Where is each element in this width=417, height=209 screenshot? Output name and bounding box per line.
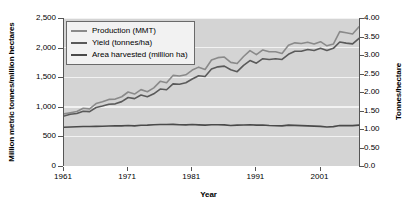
y-axis-right-tick-label: 1.00 xyxy=(364,124,408,134)
y-axis-left-tick-mark xyxy=(58,48,63,49)
y-axis-left-tick-label: 0 xyxy=(12,161,56,171)
y-axis-left-tick-label: 1,500 xyxy=(12,72,56,82)
y-axis-right-tick-mark xyxy=(359,18,364,19)
y-axis-left-tick-label: 2,500 xyxy=(12,13,56,23)
y-axis-right-tick-mark xyxy=(359,111,364,112)
x-axis-tick-label: 1991 xyxy=(235,172,275,182)
x-axis-tick-label: 1971 xyxy=(107,172,147,182)
legend-swatch-production xyxy=(71,30,87,32)
y-axis-left-title: Million metric tonnes/million hectares xyxy=(7,12,17,172)
y-axis-right-tick-mark xyxy=(359,129,364,130)
legend-swatch-yield xyxy=(71,42,87,44)
y-axis-right-tick-mark xyxy=(359,37,364,38)
x-axis-tick-label: 1961 xyxy=(43,172,83,182)
legend-item-area-harvested: Area harvested (million ha) xyxy=(71,49,188,61)
y-axis-right-tick-label: 2.00 xyxy=(364,87,408,97)
legend-label-yield: Yield (tonnes/ha) xyxy=(92,38,152,48)
chart-legend: Production (MMT) Yield (tonnes/ha) Area … xyxy=(66,21,195,65)
legend-label-area-harvested: Area harvested (million ha) xyxy=(92,50,188,60)
x-axis-tick-mark xyxy=(127,167,128,171)
y-axis-right-tick-label: 0.50 xyxy=(364,143,408,153)
x-axis-title: Year xyxy=(0,190,417,199)
legend-swatch-area-harvested xyxy=(71,54,87,56)
y-axis-right-tick-label: 4.00 xyxy=(364,13,408,23)
series-line xyxy=(64,124,359,127)
y-axis-right-tick-mark xyxy=(359,166,364,167)
x-axis-tick-mark xyxy=(63,167,64,171)
y-axis-left-tick-mark xyxy=(58,136,63,137)
y-axis-right-tick-label: 3.50 xyxy=(364,32,408,42)
y-axis-right-tick-label: 0.0 xyxy=(364,161,408,171)
y-axis-left-tick-mark xyxy=(58,77,63,78)
x-axis-tick-label: 2001 xyxy=(300,172,340,182)
x-axis-tick-mark xyxy=(320,167,321,171)
y-axis-left-tick-label: 2,000 xyxy=(12,43,56,53)
y-axis-left-tick-mark xyxy=(58,18,63,19)
y-axis-right-tick-mark xyxy=(359,92,364,93)
y-axis-left-tick-label: 500 xyxy=(12,131,56,141)
x-axis-tick-mark xyxy=(191,167,192,171)
legend-label-production: Production (MMT) xyxy=(92,26,156,36)
legend-item-yield: Yield (tonnes/ha) xyxy=(71,37,188,49)
y-axis-left-tick-mark xyxy=(58,107,63,108)
y-axis-left-tick-label: 1,000 xyxy=(12,102,56,112)
y-axis-right-tick-label: 1.50 xyxy=(364,106,408,116)
chart-figure: Million metric tonnes/million hectares T… xyxy=(0,0,417,209)
y-axis-right-tick-label: 3.00 xyxy=(364,50,408,60)
y-axis-right-tick-label: 2.50 xyxy=(364,69,408,79)
y-axis-right-tick-mark xyxy=(359,148,364,149)
legend-item-production: Production (MMT) xyxy=(71,25,188,37)
x-axis-tick-mark xyxy=(255,167,256,171)
y-axis-right-tick-mark xyxy=(359,74,364,75)
y-axis-right-tick-mark xyxy=(359,55,364,56)
x-axis-tick-label: 1981 xyxy=(171,172,211,182)
